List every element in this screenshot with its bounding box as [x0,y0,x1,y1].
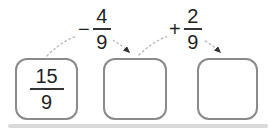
start-fraction-bar [30,88,64,90]
start-value-box: 15 9 [15,58,78,120]
start-fraction-denominator: 9 [41,92,52,112]
add-fraction-denominator: 9 [187,32,198,52]
add-fraction-numerator: 2 [187,6,198,26]
plus-sign: + [169,19,181,39]
add-fraction-bar [184,28,202,30]
minus-sign: − [78,19,90,39]
add-fraction: 2 9 [184,6,202,52]
start-fraction-numerator: 15 [35,66,57,86]
subtract-fraction-numerator: 4 [96,6,107,26]
start-fraction: 15 9 [30,66,64,112]
answer-box-2[interactable] [197,58,258,120]
fraction-arithmetic-diagram: − 4 9 + 2 9 15 9 [0,0,271,129]
operation-label-subtract: − 4 9 [76,6,113,52]
subtract-fraction-denominator: 9 [96,32,107,52]
subtract-fraction-bar [93,28,111,30]
answer-box-1[interactable] [103,58,167,120]
subtract-fraction: 4 9 [93,6,111,52]
operation-label-add: + 2 9 [167,6,204,52]
